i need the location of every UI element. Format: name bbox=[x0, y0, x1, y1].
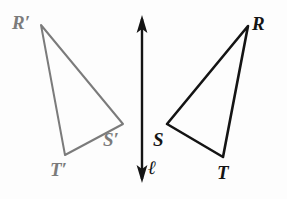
vertex-label-r: R bbox=[252, 14, 265, 33]
vertex-label-s: S bbox=[153, 130, 164, 149]
vertex-label-s-prime: S′ bbox=[103, 130, 119, 149]
vertex-label-r-prime: R′ bbox=[12, 13, 30, 32]
vertex-label-t-prime: T′ bbox=[50, 160, 67, 179]
reflection-diagram: R′ S′ T′ R S T ℓ bbox=[0, 0, 287, 199]
preimage-triangle-shape bbox=[167, 26, 248, 157]
geometry-canvas bbox=[0, 0, 287, 199]
mirror-line-label: ℓ bbox=[148, 158, 156, 177]
vertex-label-t: T bbox=[217, 163, 229, 182]
